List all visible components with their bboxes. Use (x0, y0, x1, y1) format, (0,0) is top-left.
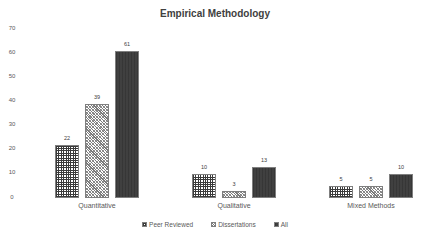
y-tick-50: 50 (2, 73, 22, 79)
category-label: Mixed Methods (321, 202, 421, 209)
legend-item-all: All (274, 221, 288, 228)
category-label: Quantitative (47, 202, 147, 209)
bar-all-mixed-methods (389, 174, 413, 198)
data-label: 5 (356, 176, 386, 182)
y-tick-0: 0 (2, 194, 22, 200)
y-tick-60: 60 (2, 49, 22, 55)
data-label: 10 (189, 164, 219, 170)
data-label: 5 (326, 176, 356, 182)
y-tick-30: 30 (2, 121, 22, 127)
data-label: 10 (386, 164, 416, 170)
bar-peer-reviewed-qualitative (192, 174, 216, 198)
y-tick-20: 20 (2, 145, 22, 151)
legend-item-peer-reviewed: Peer Reviewed (142, 221, 193, 228)
all-swatch-icon (274, 222, 279, 227)
data-label: 61 (112, 41, 142, 47)
data-label: 39 (82, 94, 112, 100)
bar-peer-reviewed-mixed-methods (329, 186, 353, 198)
dissertations-swatch-icon (211, 222, 216, 227)
chart-title: Empirical Methodology (0, 8, 430, 19)
y-tick-10: 10 (2, 169, 22, 175)
data-label: 13 (249, 157, 279, 163)
data-label: 3 (219, 181, 249, 187)
bar-peer-reviewed-quantitative (55, 145, 79, 198)
peer-reviewed-swatch-icon (142, 222, 147, 227)
legend: Peer Reviewed Dissertations All (0, 221, 430, 228)
bar-dissertations-quantitative (85, 104, 109, 198)
bar-all-quantitative (115, 51, 139, 198)
y-tick-70: 70 (2, 25, 22, 31)
legend-item-dissertations: Dissertations (211, 221, 256, 228)
y-tick-40: 40 (2, 97, 22, 103)
bar-all-qualitative (252, 167, 276, 198)
bar-dissertations-qualitative (222, 191, 246, 198)
bar-dissertations-mixed-methods (359, 186, 383, 198)
data-label: 22 (52, 135, 82, 141)
category-label: Qualitative (184, 202, 284, 209)
